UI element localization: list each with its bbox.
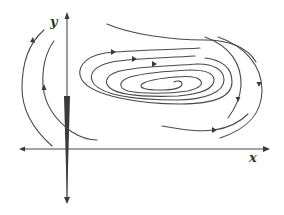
trajectory-bottom-right [162,114,248,131]
phase-portrait-svg [0,0,284,215]
trajectory-left-outer [22,30,52,146]
trajectory-arrow-icon [212,127,217,133]
x-axis-left-arrow-icon [19,147,25,152]
spiral-arrow-icon [132,56,137,62]
y-axis-label: y [50,14,58,29]
trajectory-arrow-icon [42,84,47,90]
trajectory-right-outer [218,37,262,138]
spiral-ring-5 [141,77,182,90]
left-trajectories [22,30,97,146]
spiral-arrow-icon [111,49,116,55]
y-axis-up-arrow-icon [65,12,70,19]
trajectory-right-inner [205,37,241,118]
x-axis-label: x [249,150,257,165]
spiral-trajectories [80,24,256,104]
phase-portrait-diagram: y x [0,0,284,215]
trajectory-arrow-icon [257,82,262,87]
x-axis-right-arrow-icon [263,146,270,152]
trajectory-arrow-icon [236,97,241,102]
trajectory-left-inner [43,41,97,140]
axes [19,12,270,204]
y-axis-down-arrow-icon-2 [64,197,70,204]
